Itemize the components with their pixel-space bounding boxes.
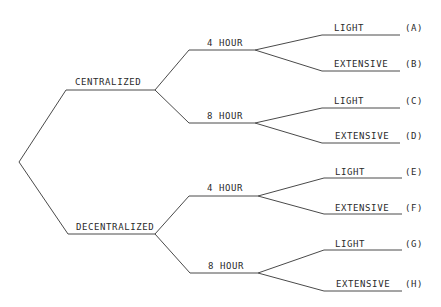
label-centralized-4hour: 4 HOUR <box>207 38 243 48</box>
leaf-label-h: EXTENSIVE <box>336 279 390 289</box>
branch-leaf-g <box>258 250 402 273</box>
leaf-tag-a: (A) <box>405 23 423 33</box>
branch-decentralized-4hour <box>155 196 258 234</box>
branch-centralized-4hour <box>155 50 255 90</box>
label-decentralized-4hour: 4 HOUR <box>207 183 243 193</box>
branch-leaf-e <box>258 178 402 196</box>
leaf-label-f: EXTENSIVE <box>335 203 389 213</box>
label-decentralized: DECENTRALIZED <box>76 222 154 232</box>
leaf-tag-h: (H) <box>405 279 423 289</box>
leaf-tag-b: (B) <box>405 59 423 69</box>
leaf-tag-c: (C) <box>405 96 423 106</box>
leaf-label-g: LIGHT <box>335 239 365 249</box>
label-centralized: CENTRALIZED <box>75 77 141 87</box>
branch-leaf-c <box>255 108 400 123</box>
leaf-label-e: LIGHT <box>335 167 365 177</box>
label-centralized-8hour: 8 HOUR <box>207 111 243 121</box>
leaf-tag-d: (D) <box>405 131 423 141</box>
decision-tree: CENTRALIZED DECENTRALIZED 4 HOUR 8 HOUR … <box>0 0 441 307</box>
leaf-label-d: EXTENSIVE <box>335 131 389 141</box>
leaf-tag-f: (F) <box>405 203 423 213</box>
leaf-tag-g: (G) <box>405 239 423 249</box>
branch-leaf-a <box>255 35 400 50</box>
leaf-label-a: LIGHT <box>334 23 364 33</box>
leaf-label-b: EXTENSIVE <box>334 59 388 69</box>
leaf-tag-e: (E) <box>405 167 423 177</box>
label-decentralized-8hour: 8 HOUR <box>208 261 244 271</box>
leaf-label-c: LIGHT <box>334 96 364 106</box>
branch-root-centralized <box>19 90 155 162</box>
